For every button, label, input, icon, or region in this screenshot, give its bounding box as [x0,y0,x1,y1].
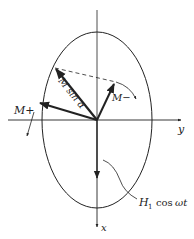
label-h1-cos-omega-t: H 1 cos ωt [138,196,188,211]
label-m-sin-alpha: M sin α [56,75,88,111]
h1-leader-line [103,160,137,199]
label-m-minus: M− [111,92,131,103]
phasor-diagram: M+ M− M sin α y x H 1 cos ωt [0,0,194,239]
svg-text:cos: cos [156,197,173,208]
m-plus-vector [40,103,97,120]
svg-text:ωt: ωt [175,197,188,208]
label-x-axis: x [101,222,107,233]
svg-text:1: 1 [148,203,152,211]
label-m-plus: M+ [13,104,34,117]
label-y-axis: y [177,123,185,136]
